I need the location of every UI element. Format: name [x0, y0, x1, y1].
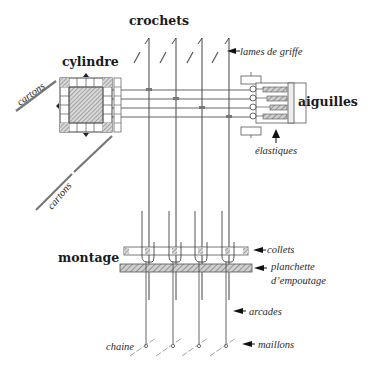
label-lames-de-griffe: lames de griffe — [240, 46, 303, 57]
aiguilles-needle-box — [241, 72, 306, 138]
label-chaine: chaine — [106, 341, 134, 352]
label-cylindre: cylindre — [62, 54, 119, 69]
label-empoutage: d’empoutage — [271, 275, 326, 286]
collets-bar — [124, 247, 248, 255]
label-crochets: crochets — [129, 13, 189, 28]
label-montage: montage — [58, 250, 119, 265]
label-cartons-top: cartons — [15, 80, 47, 107]
label-planchette: planchette — [270, 261, 315, 272]
crochets-hooks — [145, 38, 229, 300]
arcades-threads — [146, 262, 226, 345]
arrow-planchette-icon — [254, 265, 264, 271]
arrow-elastiques-icon — [272, 129, 280, 138]
aiguilles-needles — [110, 90, 258, 117]
arrow-collets-icon — [253, 247, 263, 253]
label-aiguilles: aiguilles — [298, 94, 358, 109]
needle-hook-loops — [146, 88, 232, 118]
jacquard-mechanism-diagram: crochets cylindre aiguilles montage lame… — [0, 0, 368, 376]
label-collets: collets — [267, 244, 294, 255]
label-arcades: arcades — [249, 306, 282, 317]
label-elastiques: élastiques — [255, 145, 297, 156]
arrow-arcades-icon — [233, 308, 243, 314]
cylindre-cylinder — [56, 73, 121, 137]
cartons-strip-bottom — [36, 136, 112, 210]
planchette-empoutage — [120, 264, 252, 272]
label-maillons: maillons — [258, 339, 294, 350]
arrow-lames-icon — [227, 48, 236, 54]
arrow-maillons-icon — [242, 341, 252, 347]
maillons — [144, 344, 227, 347]
